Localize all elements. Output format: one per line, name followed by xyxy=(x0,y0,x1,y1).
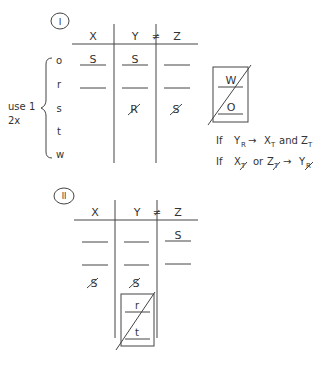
s2-row3-x-crossed: S xyxy=(91,277,98,290)
row-label-t: t xyxy=(57,126,61,137)
y-box-r: r xyxy=(135,300,140,311)
s1-o-x: S xyxy=(90,53,97,66)
s2-row1-z: S xyxy=(175,229,182,242)
side-box-w: W xyxy=(226,74,237,87)
svg-text:Y: Y xyxy=(298,156,306,167)
row-label-o: o xyxy=(56,55,62,66)
s2-header-z: Z xyxy=(174,206,182,219)
s1-o-y: S xyxy=(132,53,139,66)
y-box-t: t xyxy=(135,327,139,338)
svg-text:Z: Z xyxy=(267,156,274,167)
scenario-2-number: II xyxy=(62,192,67,201)
s1-header-y: Y xyxy=(131,30,139,43)
svg-text:T: T xyxy=(270,141,276,149)
svg-text:X: X xyxy=(234,156,241,167)
side-box-o: O xyxy=(227,101,236,114)
svg-text:Y: Y xyxy=(233,135,241,146)
brace-note-2x: 2x xyxy=(8,115,20,126)
s1-neq: ≠ xyxy=(152,31,160,42)
logic-game-diagram: I X Y ≠ Z S S R S o r s t w use 1 2x W O… xyxy=(0,0,336,365)
svg-text:Z: Z xyxy=(301,135,308,146)
s1-header-z: Z xyxy=(173,30,181,43)
svg-text:X: X xyxy=(264,135,271,146)
row-label-s: s xyxy=(56,103,61,114)
s2-header-y: Y xyxy=(133,206,141,219)
s1-header-x: X xyxy=(89,30,97,43)
rule-1: If YR → XT and ZT xyxy=(216,135,313,149)
row-label-w: w xyxy=(56,149,64,160)
s2-row3-y-crossed: S xyxy=(133,277,140,290)
brace-note-use1: use 1 xyxy=(8,101,35,112)
s1-s-y-crossed: R xyxy=(130,103,138,116)
svg-text:→: → xyxy=(283,156,291,167)
svg-text:and: and xyxy=(279,135,298,146)
svg-text:→: → xyxy=(248,135,256,146)
s1-s-z-crossed: S xyxy=(173,103,180,116)
row-label-r: r xyxy=(57,79,62,90)
scenario-1-number: I xyxy=(59,17,62,27)
svg-text:If: If xyxy=(216,135,223,146)
svg-text:or: or xyxy=(253,156,264,167)
svg-text:If: If xyxy=(216,156,223,167)
svg-text:R: R xyxy=(241,141,246,149)
rule-2: If XT or ZT → YR xyxy=(216,156,313,170)
brace xyxy=(41,58,52,158)
s2-neq: ≠ xyxy=(153,207,161,218)
svg-text:T: T xyxy=(307,141,313,149)
s2-header-x: X xyxy=(91,206,99,219)
